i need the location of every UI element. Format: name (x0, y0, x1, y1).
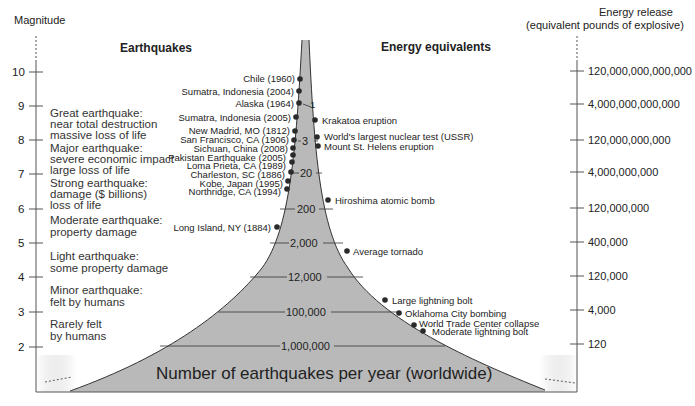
right-axis-title-line2: (equivalent pounds of explosive) (526, 19, 684, 31)
event-alaska-1964: Alaska (1964) (235, 98, 301, 109)
description-minor: Minor earthquake: felt by humans (50, 284, 146, 308)
svg-text:Alaska (1964): Alaska (1964) (235, 98, 294, 109)
energy-average-tornado: Average tornado (344, 246, 423, 257)
svg-text:Large lightning bolt: Large lightning bolt (392, 295, 473, 306)
energy-tick: 120,000,000,000,000 (588, 65, 692, 77)
tick-6: 6 (18, 203, 24, 215)
energy-tick: 4,000 (588, 304, 616, 316)
energy-tick: 120 (588, 338, 606, 350)
tick-3: 3 (18, 306, 24, 318)
funnel-fade-right (540, 355, 578, 392)
svg-text:Average tornado: Average tornado (353, 246, 423, 257)
event-sumatra-2005: Sumatra, Indonesia (2005) (179, 112, 299, 123)
event-sumatra-2004: Sumatra, Indonesia (2004) (182, 86, 302, 97)
energy-tick: 4,000,000,000,000 (588, 98, 680, 110)
svg-text:Sumatra, Indonesia (2004): Sumatra, Indonesia (2004) (182, 86, 294, 97)
svg-text:Krakatoa eruption: Krakatoa eruption (322, 115, 397, 126)
energy-moderate-lightning: Moderate lightning bolt (420, 326, 528, 337)
svg-text:Moderate lightning bolt: Moderate lightning bolt (432, 326, 528, 337)
tick-4: 4 (18, 271, 25, 283)
event-chile-1960: Chile (1960) (243, 73, 303, 84)
description-moderate: Moderate earthquake: property damage (50, 214, 166, 238)
svg-text:Long Island, NY (1884): Long Island, NY (1884) (173, 222, 271, 233)
tick-2: 2 (18, 341, 24, 353)
band-label: 12,000 (288, 271, 322, 283)
funnel-caption: Number of earthquakes per year (worldwid… (156, 364, 492, 383)
svg-text:Mount St. Helens eruption: Mount St. Helens eruption (324, 141, 434, 152)
svg-text:Sumatra, Indonesia (2005): Sumatra, Indonesia (2005) (179, 112, 291, 123)
tick-7: 7 (18, 168, 24, 180)
description-rarely-felt: Rarely felt by humans (50, 318, 107, 342)
event-northridge-1994: Northridge, CA (1994) (189, 186, 290, 197)
tick-9: 9 (18, 100, 24, 112)
description-strong: Strong earthquake: damage ($ billions) l… (50, 177, 151, 211)
tick-10: 10 (12, 66, 25, 78)
svg-text:Northridge, CA (1994): Northridge, CA (1994) (189, 186, 281, 197)
band-label: 2,000 (290, 237, 318, 249)
energy-equivalents-header: Energy equivalents (381, 40, 491, 54)
description-light: Light earthquake: some property damage (50, 250, 168, 274)
right-axis-ticks: 120,000,000,000,000 4,000,000,000,000 12… (570, 65, 692, 350)
left-axis-title: Magnitude (14, 14, 65, 26)
description-major: Major earthquake: severe economic impact… (50, 142, 177, 176)
energy-tick: 120,000 (588, 270, 628, 282)
energy-krakatoa: Krakatoa eruption (312, 115, 397, 126)
band-label: 200 (297, 203, 315, 215)
energy-hiroshima: Hiroshima atomic bomb (325, 195, 435, 206)
energy-tick: 120,000,000 (588, 202, 649, 214)
tick-5: 5 (18, 237, 24, 249)
event-long-island-1884: Long Island, NY (1884) (173, 222, 279, 233)
svg-text:Hiroshima atomic bomb: Hiroshima atomic bomb (335, 195, 435, 206)
energy-large-lightning: Large lightning bolt (382, 295, 472, 306)
right-axis: Energy release (equivalent pounds of exp… (526, 6, 692, 392)
svg-text:Chile (1960): Chile (1960) (243, 73, 295, 84)
magnitude-descriptions: Great earthquake: near total destruction… (50, 107, 177, 342)
energy-mount-st-helens: Mount St. Helens eruption (315, 141, 434, 152)
band-label: 1,000,000 (281, 340, 330, 352)
earthquakes-header: Earthquakes (120, 41, 192, 55)
right-axis-title-line1: Energy release (599, 6, 673, 18)
tick-8: 8 (18, 134, 24, 146)
energy-tick: 4,000,000,000 (588, 166, 658, 178)
band-label: 100,000 (286, 306, 326, 318)
band-label: 20 (300, 167, 312, 179)
funnel-fade-left (36, 355, 76, 392)
band-label: 1 (310, 99, 315, 110)
earthquake-magnitude-diagram: 1 3 20 200 2,000 12,000 (0, 0, 695, 406)
energy-tick: 120,000,000,000 (588, 134, 671, 146)
band-label: 3 (302, 135, 308, 147)
description-great: Great earthquake: near total destruction… (50, 107, 161, 141)
left-axis-ticks: 10 9 8 7 6 5 4 3 2 (12, 66, 43, 353)
energy-tick: 400,000 (588, 236, 628, 248)
